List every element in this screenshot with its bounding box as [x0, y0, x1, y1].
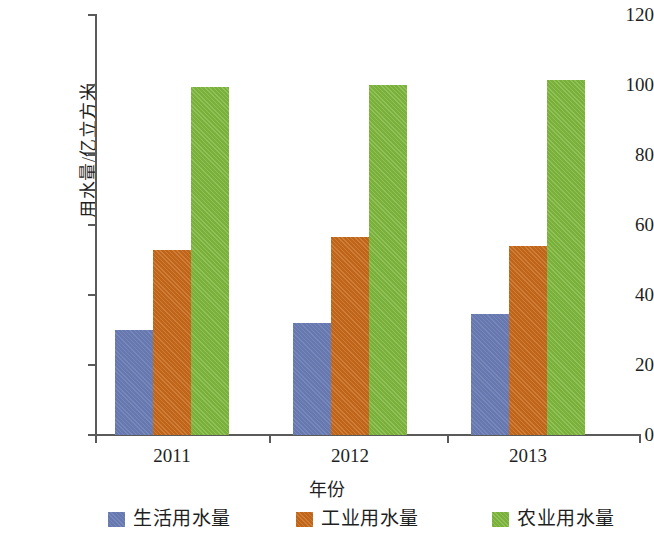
legend-swatch-icon: [108, 512, 125, 527]
bar-2013-2: [547, 80, 585, 435]
bar-2012-1: [331, 237, 369, 435]
legend-label: 农业用水量: [517, 508, 615, 530]
y-axis-tick: [88, 224, 96, 226]
x-axis-tick-label-2012: 2012: [305, 446, 395, 466]
y-axis-tick: [88, 14, 96, 16]
legend-swatch-icon: [296, 512, 313, 527]
y-axis-tick: [88, 294, 96, 296]
legend-swatch-icon: [492, 512, 509, 527]
x-axis-tick: [95, 435, 97, 443]
legend-label: 生活用水量: [133, 508, 231, 530]
bar-2013-0: [471, 314, 509, 435]
y-axis-tick: [88, 364, 96, 366]
chart-legend: 生活用水量工业用水量农业用水量: [0, 508, 654, 535]
x-axis-tick-label-2011: 2011: [127, 446, 217, 466]
bar-2011-0: [115, 330, 153, 435]
legend-item-1[interactable]: 工业用水量: [296, 508, 419, 530]
x-axis-title: 年份: [0, 480, 654, 500]
bar-2012-0: [293, 323, 331, 435]
plot-area: [96, 15, 640, 435]
x-axis-tick: [447, 435, 449, 443]
bar-chart: 用水量/亿立方米 020406080100120 201120122013 年份…: [0, 0, 654, 535]
x-axis-tick-label-2013: 2013: [483, 446, 573, 466]
y-axis-tick: [88, 84, 96, 86]
bar-2013-1: [509, 246, 547, 435]
legend-item-0[interactable]: 生活用水量: [108, 508, 231, 530]
bar-2011-1: [153, 250, 191, 436]
bar-2012-2: [369, 85, 407, 435]
legend-label: 工业用水量: [321, 508, 419, 530]
y-axis-tick: [88, 154, 96, 156]
legend-item-2[interactable]: 农业用水量: [492, 508, 615, 530]
x-axis-tick: [269, 435, 271, 443]
bar-2011-2: [191, 87, 229, 435]
x-axis-tick: [639, 435, 641, 443]
